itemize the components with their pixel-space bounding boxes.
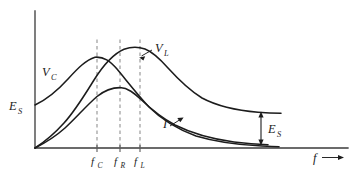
tick-label-fl-sub: L xyxy=(140,161,145,170)
curve-label-i-base: I xyxy=(162,117,168,131)
chart-background xyxy=(0,0,362,178)
resonance-chart-svg: f f C f R f L V C V L I E S xyxy=(0,0,362,178)
curve-label-vc-sub: C xyxy=(51,73,57,82)
curve-label-i: I xyxy=(162,117,168,131)
annotation-es-bracket-base: E xyxy=(267,122,276,136)
tick-label-fr-sub: R xyxy=(120,161,126,170)
annotation-es-axis-base: E xyxy=(8,99,17,113)
curve-label-vl-sub: L xyxy=(163,49,169,58)
resonance-curve-figure: f f C f R f L V C V L I E S xyxy=(0,0,362,178)
